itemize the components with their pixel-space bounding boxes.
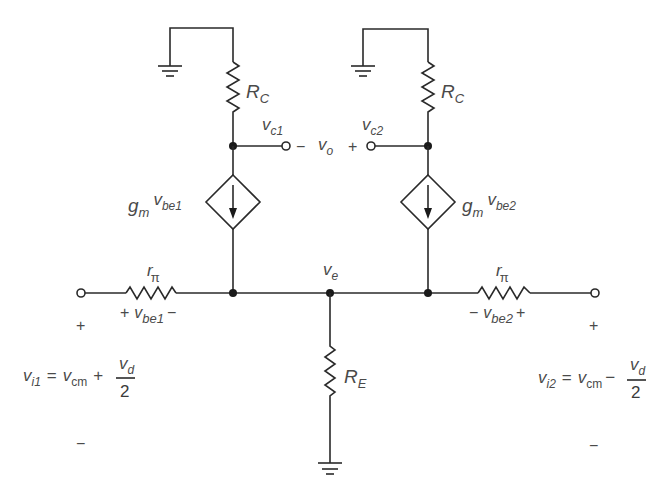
emitter-rail [85,287,591,299]
vd-denominator: 2 [120,382,129,401]
vbe2-label: −vbe2+ [469,304,525,326]
ve-label: ve [323,260,339,283]
ground-icon [318,463,342,474]
rpi-right-label: rπ [496,261,509,285]
vi2-expression: vi2=vcm− [538,368,615,391]
vi1-expression: vi1=vcm+ [23,366,103,389]
input-terminal-left [77,289,85,297]
rc-left-label: RC [246,81,270,106]
input-left-minus: − [76,435,85,452]
vc1-terminal [282,142,290,150]
output-port: vc1 vc2 − vo + [233,115,428,158]
re-resistor-icon [325,293,335,463]
left-collector-branch: RC [158,28,270,146]
input-left-equation: + − vi1=vcm+ vd 2 [23,317,135,452]
vo-plus-sign: + [348,138,357,155]
vd-numerator: vd [630,355,646,378]
differential-amplifier-circuit: RC RC vc1 vc2 − vo + [0,0,668,498]
arrow-down-icon [229,208,237,219]
vo-minus-sign: − [296,138,305,155]
input-right-plus: + [589,317,598,334]
emitter-node-left [229,289,237,297]
left-top-rail-wire [170,28,233,66]
rpi-left-label: rπ [147,261,160,285]
input-right-equation: + − vi2=vcm− vd 2 [538,317,646,454]
gm-vbe1-label: gmvbe1 [128,190,182,220]
input-left-plus: + [76,317,85,334]
vbe1-label: +vbe1− [120,304,176,326]
emitter-resistor-branch: RE [318,293,367,474]
ground-icon [351,66,375,76]
vc2-label: vc2 [362,115,384,138]
rc-left-resistor-icon [227,62,239,146]
vo-label: vo [318,135,334,158]
rpi-right-resistor-icon [478,287,530,299]
gm-vbe2-label: gmvbe2 [462,190,516,220]
ground-icon [158,66,182,76]
rc-right-label: RC [441,81,465,106]
vc2-terminal [367,142,375,150]
vc1-label: vc1 [262,115,283,138]
re-label: RE [344,366,367,391]
vd-numerator: vd [119,354,135,377]
vd-denominator: 2 [631,383,640,402]
rpi-left-resistor-icon [126,287,176,299]
emitter-node-right [424,289,432,297]
right-top-rail-wire [363,29,428,66]
input-terminal-right [591,289,599,297]
input-right-minus: − [589,437,598,454]
rc-right-resistor-icon [422,62,434,146]
arrow-down-icon [424,208,432,219]
